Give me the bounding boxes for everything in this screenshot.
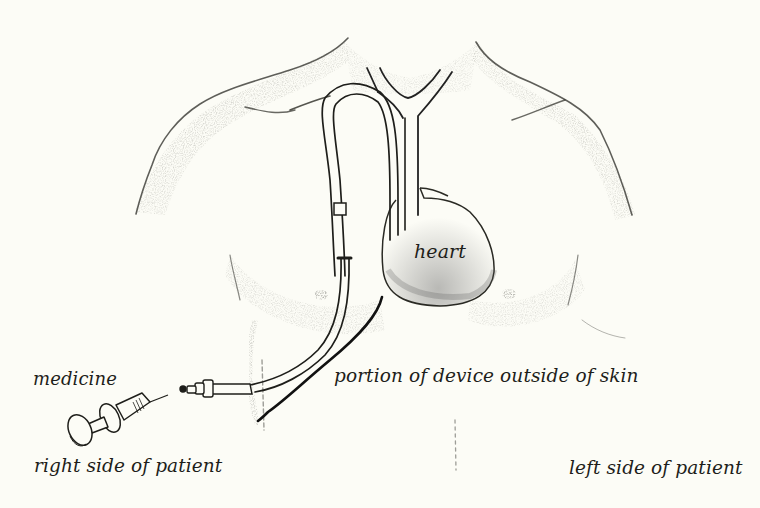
nipple-right-side xyxy=(314,290,328,300)
hub xyxy=(180,380,252,397)
label-left-side: left side of patient xyxy=(569,457,743,478)
nipple-left-side xyxy=(502,289,516,299)
label-device-outside-skin: portion of device outside of skin xyxy=(334,365,639,386)
label-right-side: right side of patient xyxy=(34,455,222,476)
label-medicine: medicine xyxy=(33,368,117,389)
cuff xyxy=(334,203,346,215)
illustration xyxy=(0,0,760,508)
diagram-canvas: heart medicine portion of device outside… xyxy=(0,0,760,508)
syringe xyxy=(63,393,168,449)
catheter xyxy=(250,84,405,392)
label-heart: heart xyxy=(414,240,466,262)
